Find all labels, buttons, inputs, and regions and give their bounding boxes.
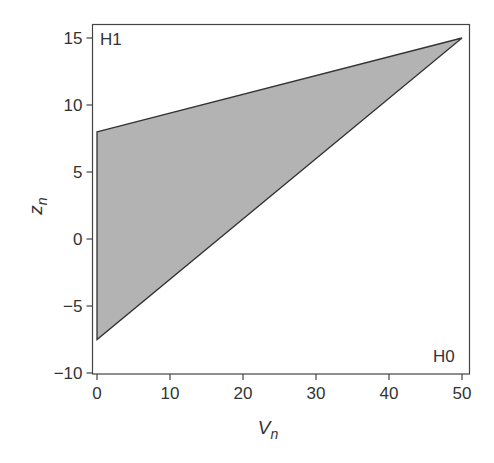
y-tick-label: 15: [64, 29, 83, 48]
y-axis-ticks: −10−5051015: [54, 29, 93, 383]
y-tick-label: 5: [73, 163, 82, 182]
x-tick-label: 30: [307, 384, 326, 403]
x-axis-ticks: 01020304050: [92, 374, 471, 403]
y-tick-label: 10: [64, 96, 83, 115]
region-polygon: [97, 38, 462, 340]
h1-label: H1: [100, 30, 122, 49]
x-tick-label: 50: [453, 384, 472, 403]
shaded-region: [97, 38, 462, 340]
x-tick-label: 40: [380, 384, 399, 403]
y-tick-label: −10: [54, 364, 83, 383]
h0-label: H0: [433, 347, 455, 366]
chart-canvas: 01020304050 −10−5051015 H1 H0 Vn zn: [0, 0, 494, 463]
y-tick-label: −5: [63, 297, 82, 316]
y-tick-label: 0: [73, 230, 82, 249]
x-axis-label: Vn: [258, 417, 279, 442]
x-tick-label: 0: [92, 384, 101, 403]
x-tick-label: 10: [161, 384, 180, 403]
x-tick-label: 20: [234, 384, 253, 403]
y-axis-label: zn: [25, 197, 50, 216]
